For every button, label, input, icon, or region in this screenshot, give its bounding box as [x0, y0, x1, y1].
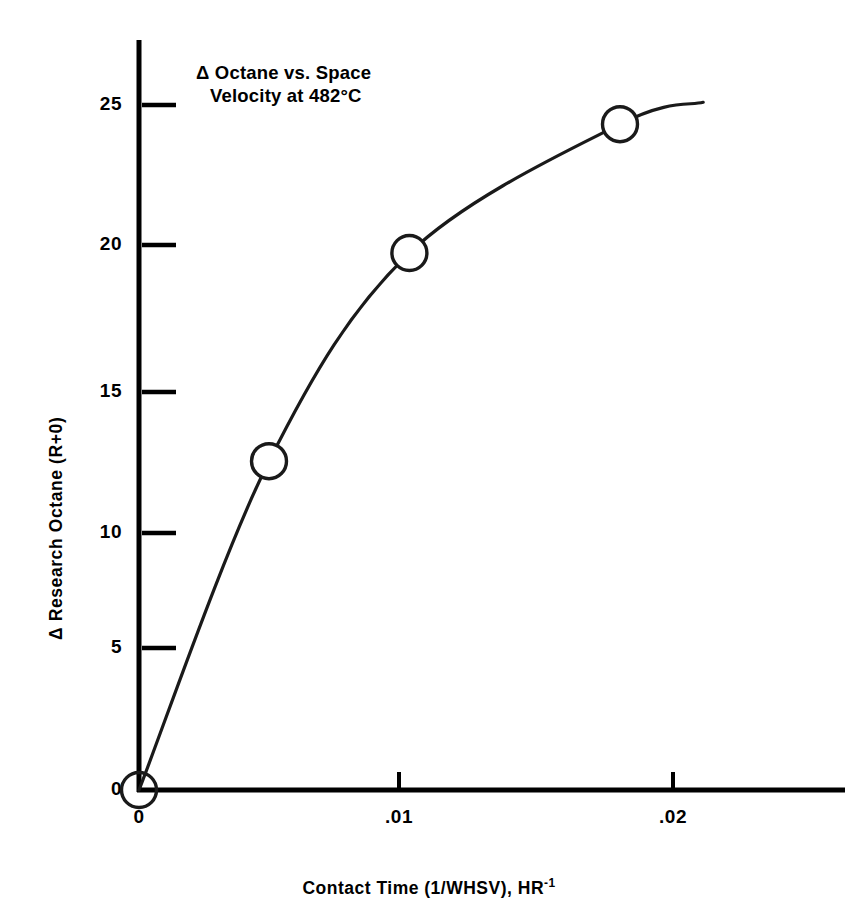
y-tick-marks [142, 105, 176, 648]
data-point-marker [392, 236, 427, 271]
data-point-markers [122, 107, 638, 808]
axes-group [137, 40, 845, 792]
x-axis-title-text: Contact Time (1/WHSV), HR [302, 878, 544, 898]
x-tick-marks [399, 772, 673, 788]
data-point-marker [603, 107, 638, 142]
x-axis-title-exponent: -1 [544, 876, 556, 890]
x-axis-title: Contact Time (1/WHSV), HR-1 [0, 876, 858, 899]
data-point-marker [252, 444, 287, 479]
plot-area [0, 0, 858, 922]
data-series-curve [139, 102, 703, 790]
chart-figure: Δ Research Octane (R+0) Δ Octane vs. Spa… [0, 0, 858, 922]
